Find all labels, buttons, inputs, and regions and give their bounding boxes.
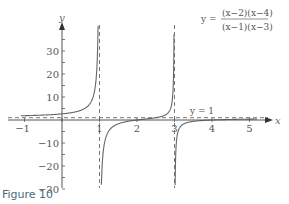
y-tick-label: 20: [46, 69, 59, 80]
y-tick-label: 30: [46, 46, 59, 57]
horizontal-asymptote-label: y = 1: [189, 106, 214, 116]
y-tick-label: −10: [38, 138, 59, 149]
y-tick-label: −20: [38, 161, 59, 172]
formula-denominator: (x−1)(x−3): [222, 22, 273, 32]
curve-branch-2: [101, 34, 174, 185]
x-tick-label: 5: [246, 123, 252, 134]
figure-caption: Figure 10: [2, 188, 53, 201]
y-tick-label: 10: [46, 92, 59, 103]
formula-lhs: y =: [200, 14, 217, 24]
rational-function-plot: −112345302010−10−20−30 y x y = 1 y = (x−…: [0, 0, 289, 204]
x-tick-label: −1: [15, 123, 30, 134]
x-tick-label: 4: [209, 123, 215, 134]
y-axis-arrow: [59, 22, 65, 30]
formula: y = (x−2)(x−4) (x−1)(x−3): [200, 8, 273, 32]
x-tick-label: 2: [134, 123, 140, 134]
x-tick-label: 3: [171, 123, 177, 134]
x-axis-name: x: [275, 115, 281, 126]
formula-numerator: (x−2)(x−4): [222, 8, 273, 18]
y-axis-name: y: [58, 12, 65, 23]
curve-branch-1: [21, 26, 98, 116]
x-tick-label: 1: [96, 123, 102, 134]
x-axis-arrow: [265, 117, 273, 123]
curve-branch-3: [175, 119, 257, 185]
